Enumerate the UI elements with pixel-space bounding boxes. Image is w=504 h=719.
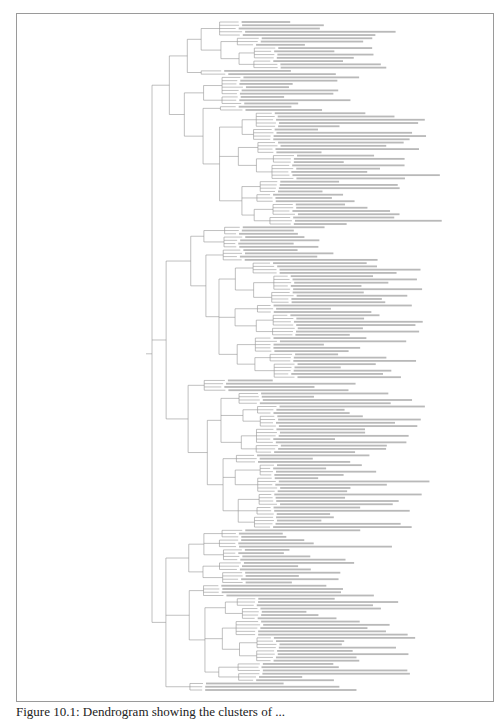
leaf-label-18: [240, 80, 337, 82]
leaf-label-111: [226, 383, 355, 385]
leaf-label-32: [278, 125, 339, 127]
leaf-label-186: [260, 627, 367, 629]
leaf-label-178: [258, 601, 398, 603]
leaf-label-5: [262, 37, 373, 39]
leaf-label-121: [277, 415, 362, 417]
leaf-label-105: [298, 363, 376, 365]
leaf-label-25: [244, 103, 298, 105]
leaf-label-177: [258, 598, 334, 600]
leaf-label-98: [280, 340, 406, 342]
leaf-label-73: [245, 259, 378, 261]
leaf-label-7: [256, 44, 305, 46]
leaf-label-27: [245, 109, 322, 111]
leaf-label-161: [239, 546, 392, 548]
leaf-label-140: [275, 477, 318, 479]
leaf-label-110: [228, 380, 273, 382]
leaf-label-198: [262, 666, 339, 668]
leaf-label-82: [293, 288, 422, 290]
leaf-label-144: [278, 490, 347, 492]
leaf-label-10: [277, 54, 373, 56]
leaf-label-23: [241, 96, 284, 98]
leaf-label-34: [276, 132, 412, 134]
leaf-label-46: [291, 171, 367, 173]
leaf-label-12: [273, 60, 343, 62]
leaf-label-101: [274, 350, 348, 352]
leaf-label-169: [245, 572, 340, 574]
leaf-label-75: [277, 265, 377, 267]
leaf-label-148: [280, 503, 393, 505]
leaf-label-112: [224, 386, 314, 388]
leaf-label-62: [294, 223, 347, 225]
leaf-label-70: [243, 249, 297, 251]
leaf-label-56: [296, 204, 345, 206]
leaf-label-20: [246, 86, 289, 88]
leaf-label-117: [260, 402, 391, 404]
leaf-label-63: [243, 226, 325, 228]
leaf-label-80: [294, 282, 388, 284]
leaf-label-199: [263, 670, 407, 672]
leaf-label-204: [205, 686, 339, 688]
leaf-label-39: [275, 148, 419, 150]
leaf-label-187: [258, 630, 386, 632]
leaf-label-11: [277, 57, 354, 59]
leaf-label-123: [276, 422, 395, 424]
leaf-label-3: [245, 31, 396, 33]
leaf-label-87: [274, 305, 412, 307]
leaf-label-142: [275, 484, 386, 486]
leaf-label-164: [242, 556, 310, 558]
leaf-label-195: [276, 657, 357, 659]
leaf-label-127: [279, 435, 409, 437]
leaf-label-157: [239, 533, 283, 535]
leaf-label-146: [276, 497, 345, 499]
leaf-label-151: [277, 513, 330, 515]
leaf-label-193: [277, 650, 353, 652]
leaf-label-61: [295, 220, 442, 222]
leaf-label-69: [239, 246, 318, 248]
leaf-label-155: [273, 526, 412, 528]
leaf-label-131: [278, 448, 386, 450]
leaf-label-92: [294, 321, 423, 323]
leaf-label-160: [238, 542, 313, 544]
leaf-label-153: [277, 520, 321, 522]
leaf-label-170: [246, 575, 299, 577]
leaf-label-45: [296, 168, 380, 170]
leaf-label-107: [294, 370, 392, 372]
leaf-label-95: [296, 331, 419, 333]
leaf-label-168: [240, 569, 311, 571]
leaf-label-68: [238, 243, 293, 245]
leaf-label-13: [280, 63, 380, 65]
leaf-label-165: [240, 559, 345, 561]
leaf-label-2: [239, 28, 320, 30]
leaf-label-130: [281, 445, 387, 447]
leaf-label-106: [295, 367, 341, 369]
leaf-label-202: [256, 679, 334, 681]
leaf-label-116: [263, 399, 412, 401]
leaf-label-74: [273, 262, 367, 264]
leaf-label-138: [276, 471, 376, 473]
leaf-label-119: [276, 409, 344, 411]
leaf-label-200: [262, 673, 409, 675]
leaf-label-147: [276, 500, 398, 502]
leaf-label-167: [242, 565, 298, 567]
leaf-label-182: [261, 614, 318, 616]
leaf-label-188: [258, 634, 407, 636]
leaf-label-30: [276, 119, 425, 121]
leaf-label-38: [281, 145, 387, 147]
leaf-label-194: [278, 653, 409, 655]
leaf-label-141: [279, 481, 430, 483]
leaf-label-71: [245, 252, 333, 254]
leaf-label-47: [292, 174, 439, 176]
leaf-label-66: [245, 236, 304, 238]
leaf-label-156: [245, 529, 360, 531]
leaf-label-185: [263, 624, 389, 626]
leaf-label-166: [244, 562, 354, 564]
leaf-label-154: [276, 523, 401, 525]
leaf-label-113: [228, 389, 348, 391]
leaf-label-103: [294, 357, 387, 359]
leaf-label-108: [291, 373, 383, 375]
leaf-label-8: [278, 47, 372, 49]
leaf-label-81: [291, 285, 362, 287]
leaf-label-173: [221, 585, 326, 587]
leaf-label-183: [258, 617, 337, 619]
